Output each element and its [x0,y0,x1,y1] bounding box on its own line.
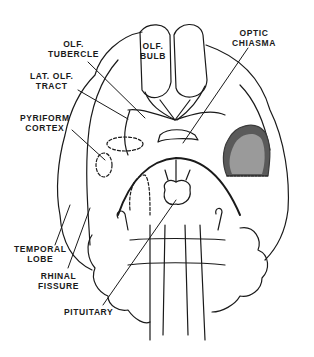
label-olf-bulb: OLF. BULB [140,42,166,61]
pituitary-stalks [165,160,190,182]
label-pituitary: PITUITARY [64,308,113,318]
dashed-region-2 [96,153,112,177]
optic-chiasma [158,130,198,142]
leader-olf-tubercle [88,62,145,118]
label-olf-tubercle: OLF. TUBERCLE [48,40,99,59]
right-olf-bulb [174,24,207,97]
leader-temporal [55,205,70,245]
cranial-nerve-right [216,208,222,230]
label-temporal-lobe: TEMPORAL LOBE [14,245,67,264]
hypothalamus-dome [118,158,240,215]
olf-stalks [145,86,205,120]
label-optic-chiasma: OPTIC CHIASMA [232,29,276,48]
left-lateral-contour [87,60,118,245]
left-olf-bulb [140,25,171,98]
leader-rhinal [68,208,90,268]
label-lat-olf-tract: LAT. OLF. TRACT [30,72,74,91]
pons [128,239,225,266]
right-cerebellum [212,228,268,312]
label-pyriform-cortex: PYRIFORM CORTEX [20,114,70,133]
brainstem [150,225,205,340]
leader-lines [55,48,248,305]
pituitary-body [164,180,190,204]
dashed-region-3 [130,175,150,215]
label-rhinal-fissure: RHINAL FISSURE [38,272,79,291]
